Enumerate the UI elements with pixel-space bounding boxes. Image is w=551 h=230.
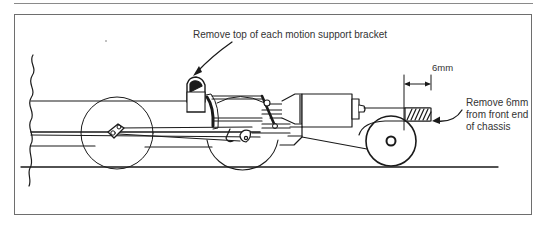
chassis-note-line2: from front end (466, 109, 536, 121)
expansion-link (207, 97, 213, 126)
chassis-note-line1: Remove 6mm (466, 97, 536, 109)
dimension-label: 6mm (432, 62, 453, 74)
second-driving-wheel (207, 140, 278, 170)
cylinder-cone (282, 94, 302, 124)
small-front-wheel (366, 116, 416, 166)
motor-cylinder (302, 94, 352, 127)
bracket-note: Remove top of each motion support bracke… (193, 29, 387, 41)
bracket-arrow (197, 42, 232, 72)
chassis-front (359, 121, 405, 135)
hatched-section-6mm (405, 108, 431, 121)
front-wheel-hub (387, 137, 396, 146)
chassis-note-line3: of chassis (466, 121, 536, 133)
motion-support-bracket (187, 77, 205, 112)
chassis-note: Remove 6mm from front end of chassis (466, 97, 536, 133)
